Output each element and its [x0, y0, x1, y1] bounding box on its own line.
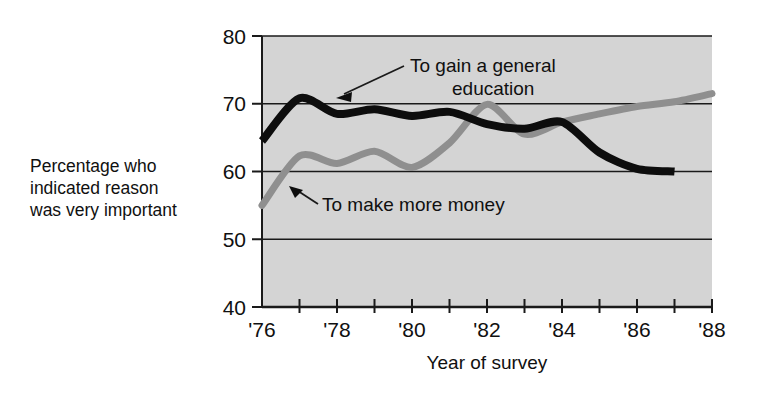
y-tick-label-50: 50 [223, 228, 246, 251]
annotation-education-line-2: education [452, 78, 534, 99]
y-axis-title: Percentage who indicated reason was very… [29, 156, 177, 220]
y-tick-label-60: 60 [223, 160, 246, 183]
y-axis-title-line-1: Percentage who [30, 156, 156, 176]
y-axis-title-line-2: indicated reason [30, 178, 158, 198]
line-chart: 80 70 60 50 40 '76 '78 '80 '8 [0, 0, 770, 395]
chart-figure: 80 70 60 50 40 '76 '78 '80 '8 [0, 0, 770, 395]
x-axis-title: Year of survey [427, 352, 548, 373]
x-tick-label-1978: '78 [323, 318, 350, 341]
y-tick-label-70: 70 [223, 92, 246, 115]
x-tick-label-1982: '82 [473, 318, 500, 341]
y-tick-label-80: 80 [223, 25, 246, 48]
x-tick-label-1976: '76 [248, 318, 275, 341]
x-tick-label-1984: '84 [548, 318, 576, 341]
x-tick-label-1980: '80 [398, 318, 425, 341]
y-axis-title-line-3: was very important [29, 200, 177, 220]
annotation-education-line-1: To gain a general [410, 55, 556, 76]
annotation-money-label: To make more money [322, 194, 505, 215]
y-tick-label-40: 40 [223, 296, 246, 319]
x-tick-label-1986: '86 [623, 318, 650, 341]
x-tick-label-1988: '88 [698, 318, 725, 341]
